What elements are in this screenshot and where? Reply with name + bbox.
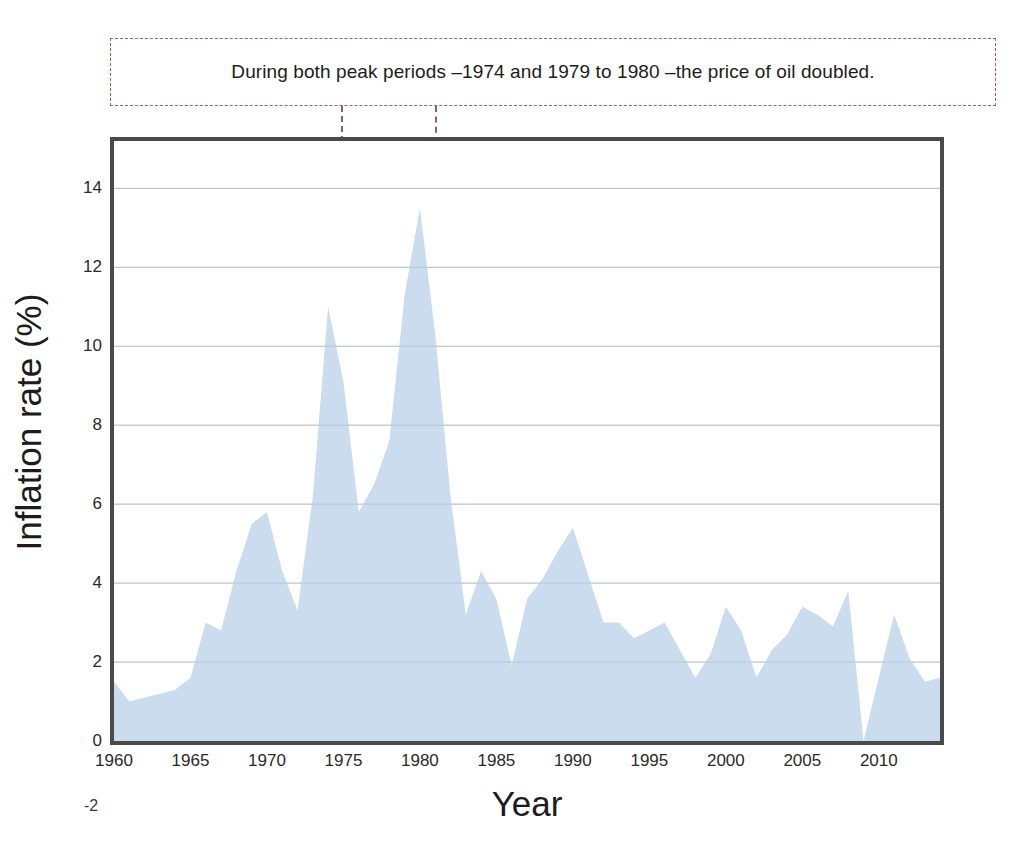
annotation-text: During both peak periods –1974 and 1979 … (231, 61, 874, 83)
y-tick-label: 14 (60, 179, 102, 196)
y-tick-label: 12 (60, 258, 102, 275)
x-tick-label: 1965 (172, 752, 210, 769)
stray-axis-label: -2 (84, 797, 98, 815)
y-axis-title: Inflation rate (%) (9, 212, 49, 632)
y-tick-label: 4 (60, 574, 102, 591)
x-tick-label: 1975 (325, 752, 363, 769)
y-tick-label: 0 (60, 732, 102, 749)
x-axis-title: Year (110, 784, 944, 824)
y-tick-label: 6 (60, 495, 102, 512)
y-tick-label: 10 (60, 337, 102, 354)
plot-inner (114, 141, 940, 741)
plot-area (110, 137, 944, 745)
x-tick-label: 1960 (95, 752, 133, 769)
x-tick-label: 1995 (630, 752, 668, 769)
annotation-callout-box: During both peak periods –1974 and 1979 … (110, 38, 996, 106)
x-tick-label: 2000 (707, 752, 745, 769)
inflation-area-chart (114, 141, 940, 741)
x-tick-label: 1980 (401, 752, 439, 769)
area-series-inflation-rate (114, 208, 940, 741)
x-tick-label: 1990 (554, 752, 592, 769)
y-tick-label: 2 (60, 653, 102, 670)
x-tick-label: 1985 (477, 752, 515, 769)
y-axis-ticks: 02468101214 (52, 137, 102, 745)
x-axis-ticks: 1960196519701975198019851990199520002005… (110, 752, 944, 776)
y-tick-label: 8 (60, 416, 102, 433)
x-tick-label: 2005 (783, 752, 821, 769)
x-tick-label: 1970 (248, 752, 286, 769)
x-tick-label: 2010 (860, 752, 898, 769)
